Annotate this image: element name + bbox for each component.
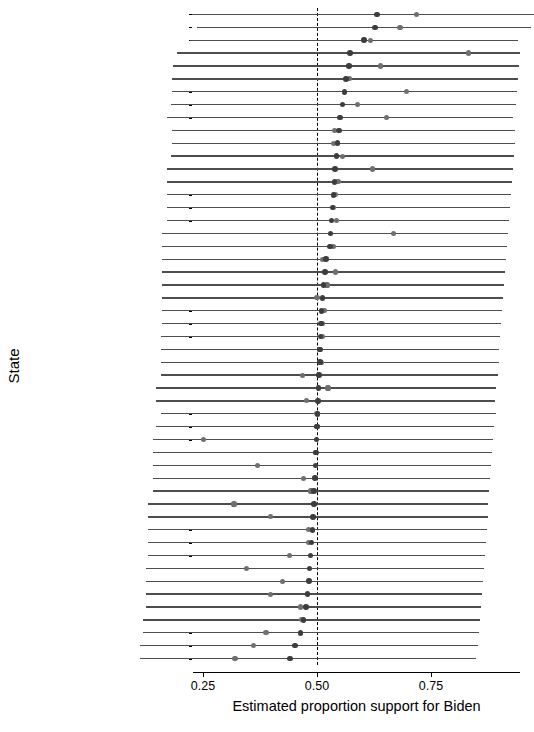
point-estimate-primary: [306, 578, 312, 584]
credible-interval-bar: [146, 581, 483, 582]
x-axis-line: [193, 672, 520, 673]
point-estimate-secondary: [325, 385, 330, 390]
point-estimate-primary: [322, 269, 328, 275]
point-estimate-primary: [331, 192, 337, 198]
credible-interval-bar: [162, 297, 503, 298]
credible-interval-bar: [140, 645, 477, 646]
point-estimate-secondary: [244, 566, 249, 571]
point-estimate-primary: [327, 244, 333, 250]
point-estimate-primary: [372, 25, 378, 31]
x-axis-title: Estimated proportion support for Biden: [193, 698, 520, 714]
y-axis-tick-mark: [189, 27, 192, 28]
point-estimate-secondary: [384, 115, 389, 120]
point-estimate-primary: [361, 37, 367, 43]
point-estimate-primary: [309, 540, 315, 546]
credible-interval-bar: [143, 632, 479, 633]
credible-interval-bar: [148, 555, 485, 556]
point-estimate-secondary: [333, 269, 338, 274]
point-estimate-primary: [332, 179, 338, 185]
credible-interval-bar: [161, 349, 499, 350]
credible-interval-bar: [162, 323, 501, 324]
point-estimate-primary: [314, 437, 320, 443]
x-axis-tick-label: 0.25: [173, 679, 233, 693]
point-estimate-secondary: [378, 63, 383, 68]
point-estimate-primary: [319, 308, 325, 314]
point-estimate-primary: [287, 656, 293, 662]
x-axis-tick-mark: [431, 673, 432, 677]
point-estimate-secondary: [232, 656, 237, 661]
point-estimate-primary: [298, 630, 304, 636]
point-estimate-secondary: [314, 295, 319, 300]
credible-interval-bar: [167, 207, 510, 208]
credible-interval-bar: [153, 490, 490, 491]
point-estimate-primary: [374, 12, 380, 18]
point-estimate-primary: [320, 295, 326, 301]
point-estimate-primary: [329, 218, 335, 224]
point-estimate-primary: [317, 359, 323, 365]
point-estimate-secondary: [268, 514, 273, 519]
point-estimate-secondary: [298, 604, 303, 609]
point-estimate-primary: [310, 514, 316, 520]
point-estimate-secondary: [368, 38, 373, 43]
point-estimate-secondary: [201, 437, 206, 442]
point-estimate-primary: [336, 128, 342, 134]
point-estimate-secondary: [301, 476, 306, 481]
credible-interval-bar: [148, 529, 486, 530]
credible-interval-bar: [192, 14, 534, 15]
point-estimate-primary: [343, 76, 349, 82]
point-estimate-secondary: [231, 501, 236, 506]
point-estimate-secondary: [263, 630, 268, 635]
credible-interval-bar: [162, 233, 508, 234]
point-estimate-primary: [313, 450, 319, 456]
point-estimate-primary: [316, 372, 322, 378]
credible-interval-bar: [148, 516, 487, 517]
credible-interval-bar: [197, 27, 531, 28]
point-estimate-primary: [323, 256, 329, 262]
point-estimate-secondary: [280, 579, 285, 584]
point-estimate-primary: [303, 604, 309, 610]
point-estimate-primary: [315, 411, 321, 417]
point-estimate-primary: [332, 166, 338, 172]
x-axis-tick-mark: [203, 673, 204, 677]
credible-interval-bar: [143, 619, 480, 620]
point-estimate-primary: [334, 153, 340, 159]
point-estimate-secondary: [304, 398, 309, 403]
point-estimate-primary: [311, 488, 317, 494]
plot-panel: [193, 8, 520, 665]
credible-interval-bar: [161, 362, 498, 363]
point-estimate-secondary: [300, 373, 305, 378]
point-estimate-primary: [321, 282, 327, 288]
credible-interval-bar: [162, 284, 504, 285]
point-estimate-primary: [307, 566, 313, 572]
credible-interval-bar: [162, 259, 506, 260]
point-estimate-primary: [312, 475, 318, 481]
point-estimate-primary: [317, 347, 323, 353]
point-estimate-secondary: [404, 89, 409, 94]
credible-interval-bar: [172, 130, 515, 131]
credible-interval-bar: [161, 336, 500, 337]
point-estimate-primary: [308, 553, 314, 559]
credible-interval-bar: [146, 568, 484, 569]
point-estimate-secondary: [287, 553, 292, 558]
credible-interval-bar: [153, 478, 490, 479]
credible-interval-bar: [190, 40, 517, 41]
point-estimate-primary: [346, 63, 352, 69]
point-estimate-primary: [311, 501, 317, 507]
point-estimate-primary: [301, 617, 307, 623]
point-estimate-primary: [292, 643, 298, 649]
credible-interval-bar: [172, 143, 515, 144]
x-axis-tick-label: 0.75: [401, 679, 461, 693]
point-estimate-secondary: [255, 463, 260, 468]
point-estimate-secondary: [355, 102, 360, 107]
point-estimate-secondary: [397, 25, 402, 30]
credible-interval-bar: [156, 400, 495, 401]
point-estimate-secondary: [251, 643, 256, 648]
point-estimate-primary: [337, 115, 343, 121]
credible-interval-bar: [167, 194, 511, 195]
credible-interval-bar: [153, 465, 491, 466]
credible-interval-bar: [156, 426, 494, 427]
x-axis-tick-label: 0.50: [287, 679, 347, 693]
point-estimate-secondary: [370, 166, 375, 171]
credible-interval-bar: [148, 503, 488, 504]
